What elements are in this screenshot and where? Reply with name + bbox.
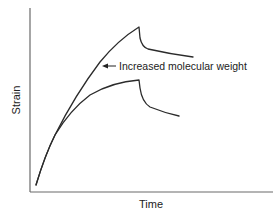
y-axis-label: Strain — [10, 86, 22, 115]
annotation-label: Increased molecular weight — [119, 60, 247, 72]
x-axis-label: Time — [139, 198, 163, 210]
arrow-left-icon — [102, 64, 108, 69]
lower-curve — [36, 80, 179, 185]
creep-chart: Increased molecular weight Time Strain — [0, 0, 280, 216]
upper-curve — [36, 27, 193, 185]
